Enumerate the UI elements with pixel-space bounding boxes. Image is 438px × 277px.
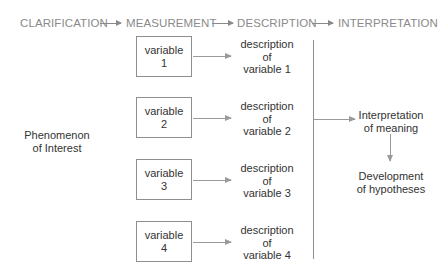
description-2: description of variable 2 bbox=[230, 100, 304, 138]
development-line2: of hypotheses bbox=[352, 183, 430, 196]
desc-line: of bbox=[230, 175, 304, 188]
variable-number: 1 bbox=[137, 57, 191, 70]
arrow-icon bbox=[313, 119, 355, 120]
desc-line: of bbox=[230, 237, 304, 250]
collector-line bbox=[313, 40, 314, 259]
arrow-icon bbox=[193, 56, 231, 57]
arrow-icon bbox=[193, 180, 231, 181]
arrow-icon bbox=[193, 242, 231, 243]
down-arrow-icon bbox=[390, 134, 391, 161]
arrow-icon bbox=[100, 23, 121, 24]
variable-label: variable bbox=[137, 167, 191, 180]
phenomenon-line1: Phenomenon bbox=[22, 129, 92, 142]
stage-interpretation: INTERPRETATION bbox=[338, 17, 438, 29]
variable-box-2: variable 2 bbox=[136, 97, 192, 138]
stage-description: DESCRIPTION bbox=[237, 17, 317, 29]
desc-line: variable 3 bbox=[230, 187, 304, 200]
desc-line: of bbox=[230, 113, 304, 126]
variable-number: 3 bbox=[137, 180, 191, 193]
desc-line: variable 4 bbox=[230, 249, 304, 262]
variable-box-1: variable 1 bbox=[136, 36, 192, 77]
desc-line: description bbox=[230, 162, 304, 175]
desc-line: description bbox=[230, 224, 304, 237]
desc-line: description bbox=[230, 100, 304, 113]
variable-box-3: variable 3 bbox=[136, 159, 192, 200]
desc-line: description bbox=[230, 38, 304, 51]
description-4: description of variable 4 bbox=[230, 224, 304, 262]
interpretation-line1: Interpretation bbox=[354, 109, 428, 122]
desc-line: variable 1 bbox=[230, 63, 304, 76]
desc-line: of bbox=[230, 51, 304, 64]
arrow-icon bbox=[312, 23, 333, 24]
variable-label: variable bbox=[137, 229, 191, 242]
description-3: description of variable 3 bbox=[230, 162, 304, 200]
variable-number: 2 bbox=[137, 118, 191, 131]
stage-measurement: MEASUREMENT bbox=[126, 17, 217, 29]
phenomenon-line2: of Interest bbox=[22, 142, 92, 155]
interpretation-label: Interpretation of meaning bbox=[354, 109, 428, 135]
phenomenon-label: Phenomenon of Interest bbox=[22, 129, 92, 155]
variable-label: variable bbox=[137, 44, 191, 57]
variable-box-4: variable 4 bbox=[136, 221, 192, 262]
interpretation-line2: of meaning bbox=[354, 122, 428, 135]
arrow-icon bbox=[212, 23, 233, 24]
development-line1: Development bbox=[352, 170, 430, 183]
variable-label: variable bbox=[137, 105, 191, 118]
description-1: description of variable 1 bbox=[230, 38, 304, 76]
stage-clarification: CLARIFICATION bbox=[20, 17, 108, 29]
development-label: Development of hypotheses bbox=[352, 170, 430, 196]
arrow-icon bbox=[193, 118, 231, 119]
desc-line: variable 2 bbox=[230, 125, 304, 138]
variable-number: 4 bbox=[137, 242, 191, 255]
stage-header: CLARIFICATION MEASUREMENT DESCRIPTION IN… bbox=[0, 8, 434, 24]
